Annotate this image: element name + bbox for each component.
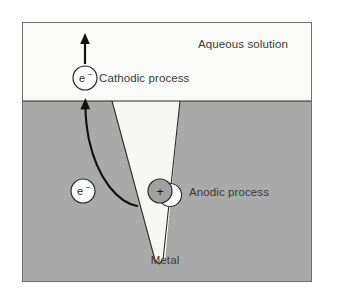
cathodic-electron-symbol: e bbox=[79, 72, 85, 84]
cathodic-electron-charge: − bbox=[88, 70, 93, 79]
bulk-electron-charge: − bbox=[86, 183, 91, 192]
aqueous-solution-label: Aqueous solution bbox=[198, 38, 288, 50]
figure-container: + e − e − Aqueous solution Cathodic proc… bbox=[0, 0, 340, 305]
bulk-electron-symbol: e bbox=[77, 185, 83, 197]
metal-label: Metal bbox=[151, 254, 180, 266]
anodic-cation-symbol: + bbox=[156, 184, 164, 199]
pitting-corrosion-diagram: + e − e − Aqueous solution Cathodic proc… bbox=[0, 0, 340, 305]
anodic-process-label: Anodic process bbox=[189, 186, 269, 198]
cathodic-process-label: Cathodic process bbox=[99, 72, 190, 84]
